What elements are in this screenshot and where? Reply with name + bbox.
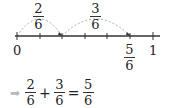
result: 56 [83,78,94,107]
equals-sign: = [68,85,80,101]
label-zero: 0 [13,43,21,58]
arrow-right-icon: ➡ [10,86,20,100]
marker-fraction: 56 [124,43,135,72]
jump-2-fraction: 36 [90,2,101,31]
label-one: 1 [149,43,157,58]
term-1: 26 [25,78,36,107]
term-2: 36 [54,78,65,107]
jump-1-fraction: 26 [33,2,44,31]
equation: ➡ 26 + 36 = 56 [10,78,94,107]
plus-sign: + [39,85,51,101]
